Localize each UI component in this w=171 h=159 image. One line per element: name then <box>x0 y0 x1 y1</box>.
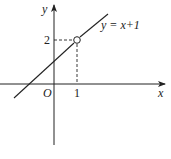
function-graph: y 2 y = x+1 O 1 x <box>0 0 171 159</box>
origin-label: O <box>43 86 52 100</box>
y-tick-label: 2 <box>44 33 50 47</box>
y-axis-label: y <box>41 2 48 16</box>
x-tick-label: 1 <box>74 86 80 100</box>
open-point <box>74 37 81 44</box>
x-axis-label: x <box>157 86 164 100</box>
equation-label: y = x+1 <box>100 18 140 32</box>
